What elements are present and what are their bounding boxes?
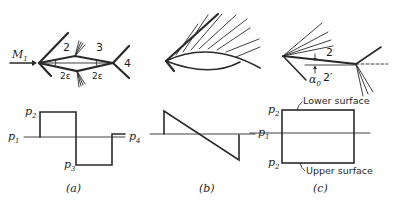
p2-top-label: p2 <box>268 103 280 118</box>
lower-surface-leader <box>297 102 302 110</box>
trailing-shock-upper <box>356 47 381 64</box>
region-3-label: 3 <box>96 41 103 54</box>
caption-c: (c) <box>313 182 328 195</box>
upper-surface-leader <box>300 163 305 171</box>
angle-arrow-up-icon <box>313 66 317 69</box>
trailing-expansion-fan <box>356 64 373 96</box>
pressure-rectangle <box>282 110 354 163</box>
caption-b: (b) <box>199 182 215 195</box>
region-2-label: 2 <box>326 46 333 59</box>
lower-surface-label: Lower surface <box>303 95 370 106</box>
panel-b-airfoil <box>166 14 260 71</box>
leading-shock-lower <box>283 56 306 80</box>
p2-label: p2 <box>25 105 37 120</box>
angle-label-front: 2ε <box>60 71 71 81</box>
biconvex-lower-surface <box>166 61 240 70</box>
pressure-linear-curve <box>164 111 239 160</box>
expansion-fan-lower <box>77 71 85 87</box>
mach-label: M1 <box>11 48 28 63</box>
p2-bottom-label: p2 <box>268 156 280 171</box>
region-2prime-label: 2′ <box>323 71 333 84</box>
pressure-step-curve <box>40 112 125 165</box>
flow-arrow-icon <box>32 60 37 66</box>
alpha0-label: α0 <box>309 73 321 88</box>
region-4-label: 4 <box>124 57 131 70</box>
supersonic-airfoil-diagram: M1 2 3 4 2ε 2ε <box>0 0 393 206</box>
p3-label: p3 <box>64 158 76 173</box>
panel-c-pressure-plot: Lower surface Upper surface p2 p1 p2 (c) <box>250 95 373 195</box>
angle-label-rear: 2ε <box>92 71 103 81</box>
diamond-airfoil <box>39 56 113 71</box>
p4-label: p4 <box>129 130 141 145</box>
region-2-label: 2 <box>63 41 70 54</box>
caption-a: (a) <box>66 182 81 195</box>
p1-label: p1 <box>258 126 270 141</box>
upper-surface-label: Upper surface <box>306 165 373 176</box>
panel-b-pressure-plot: (b) <box>150 111 255 195</box>
flat-plate <box>283 56 356 64</box>
panel-a-pressure-plot: p2 p1 p3 p4 (a) <box>8 105 141 195</box>
panel-c-flat-plate: 2 α0 2′ <box>283 23 388 96</box>
expansion-fan-upper <box>75 41 85 56</box>
p1-label: p1 <box>8 130 20 145</box>
expansion-wave-lines <box>176 14 260 57</box>
panel-a-airfoil: M1 2 3 4 2ε 2ε <box>10 33 131 87</box>
leading-shock-upper <box>166 14 218 61</box>
